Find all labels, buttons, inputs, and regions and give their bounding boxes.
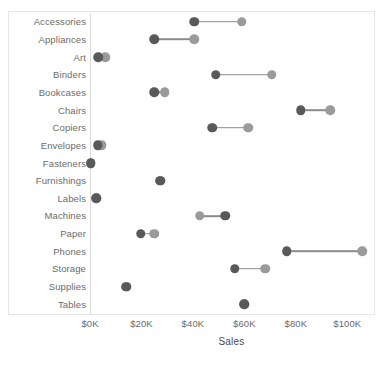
data-point-dark[interactable] [207,123,217,133]
data-point-dark[interactable] [92,194,102,204]
x-axis-tick-label: $0K [81,318,98,330]
y-axis-category-labels: AccessoriesAppliancesArtBindersBookcases… [0,13,86,313]
y-axis-label-tables: Tables [4,299,86,310]
data-point-dark[interactable] [150,88,160,98]
dumbbell-connector [287,250,363,252]
y-axis-label-chairs: Chairs [4,105,86,116]
data-point-light[interactable] [357,246,367,256]
data-point-dark[interactable] [282,246,292,256]
chart-frame-right [374,11,375,315]
y-axis-label-appliances: Appliances [4,34,86,45]
data-point-light[interactable] [160,88,170,98]
data-point-dark[interactable] [296,105,306,115]
data-point-dark[interactable] [121,282,131,292]
data-point-light[interactable] [189,35,199,45]
y-axis-label-furnishings: Furnishings [4,175,86,186]
data-point-dark[interactable] [155,176,165,186]
data-point-light[interactable] [150,229,160,239]
data-point-dark[interactable] [136,229,146,239]
data-point-light[interactable] [267,70,277,80]
x-axis-tick-label: $20K [130,318,153,330]
y-axis-label-binders: Binders [4,69,86,80]
plot-area [90,13,373,313]
data-point-dark[interactable] [93,141,103,151]
x-axis-ticks: $0K$20K$40K$60K$80K$100K [90,318,373,332]
x-axis-title: Sales [90,336,373,347]
data-point-dark[interactable] [240,299,250,309]
data-point-dark[interactable] [220,211,230,221]
y-axis-label-storage: Storage [4,263,86,274]
data-point-dark[interactable] [150,35,160,45]
y-axis-label-bookcases: Bookcases [4,87,86,98]
y-axis-label-accessories: Accessories [4,16,86,27]
data-point-dark[interactable] [86,158,96,168]
data-point-dark[interactable] [230,264,240,274]
y-axis-label-fasteners: Fasteners [4,158,86,169]
y-axis-label-paper: Paper [4,228,86,239]
x-axis-tick-label: $100K [333,318,361,330]
y-axis-label-envelopes: Envelopes [4,140,86,151]
data-point-light[interactable] [237,17,247,27]
data-point-dark[interactable] [94,52,104,62]
x-axis-tick-label: $60K [233,318,256,330]
y-axis-label-machines: Machines [4,210,86,221]
y-axis-label-phones: Phones [4,246,86,257]
data-point-dark[interactable] [211,70,221,80]
data-point-light[interactable] [326,105,336,115]
data-point-light[interactable] [244,123,254,133]
chart-frame-bottom [8,314,375,315]
y-axis-label-labels: Labels [4,193,86,204]
data-point-light[interactable] [261,264,271,274]
x-axis-tick-label: $40K [182,318,205,330]
y-axis-label-copiers: Copiers [4,122,86,133]
y-axis-label-supplies: Supplies [4,281,86,292]
chart-frame-top [8,11,375,12]
x-axis-tick-label: $80K [285,318,308,330]
dumbbell-connector [194,21,242,23]
y-axis-label-art: Art [4,52,86,63]
data-point-dark[interactable] [189,17,199,27]
dumbbell-chart: AccessoriesAppliancesArtBindersBookcases… [0,0,383,376]
dumbbell-connector [154,39,194,41]
dumbbell-connector [216,74,272,76]
data-point-light[interactable] [195,211,205,221]
